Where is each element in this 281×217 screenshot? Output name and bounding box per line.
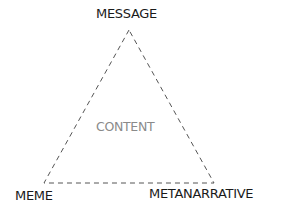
vertex-label-metanarrative: METANARRATIVE [149, 187, 253, 200]
vertex-label-meme: MEME [15, 189, 53, 202]
triangle-diagram [0, 0, 281, 217]
vertex-label-message: MESSAGE [96, 7, 157, 20]
center-label-content: CONTENT [96, 121, 154, 134]
dashed-triangle [44, 30, 214, 183]
